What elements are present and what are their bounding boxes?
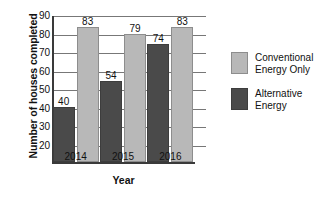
legend-swatch [231,88,248,110]
bar: 74 [147,44,169,162]
plot-area: 9080706050403020 408354797483 [52,16,194,164]
y-axis-tick-label: 30 [39,122,50,132]
y-axis-tick-label: 80 [39,30,50,40]
y-axis-tick-label: 50 [39,85,50,95]
legend-item: Conventional Energy Only [231,52,323,75]
x-axis-line [52,162,195,164]
chart-legend: Conventional Energy OnlyAlternative Ener… [231,52,323,124]
bar-value-label: 54 [105,71,116,81]
bar: 83 [171,27,193,162]
y-axis-title: Number of houses completed [27,6,39,166]
bar-value-label: 83 [82,17,93,27]
y-axis-tick-label: 90 [39,11,50,21]
bar: 79 [124,34,146,162]
bar: 83 [77,27,99,162]
x-axis-title: Year [52,174,195,186]
bar-chart-figure: Number of houses completed 9080706050403… [0,0,323,199]
y-axis-tick-label: 60 [39,67,50,77]
bar-value-label: 83 [177,17,188,27]
legend-label: Conventional Energy Only [255,52,313,75]
x-axis-tick-label: 2015 [112,151,134,162]
y-axis-tick-label: 70 [39,48,50,58]
legend-item: Alternative Energy [231,88,323,111]
bar-value-label: 79 [129,24,140,34]
legend-swatch [231,52,248,74]
bar: 54 [100,81,122,162]
bar-value-label: 74 [153,34,164,44]
legend-label: Alternative Energy [255,88,302,111]
y-axis-tick-label: 40 [39,104,50,114]
bar-value-label: 40 [58,97,69,107]
y-axis-tick-label: 20 [39,141,50,151]
x-axis-tick-label: 2014 [65,151,87,162]
x-axis-tick-label: 2016 [159,151,181,162]
